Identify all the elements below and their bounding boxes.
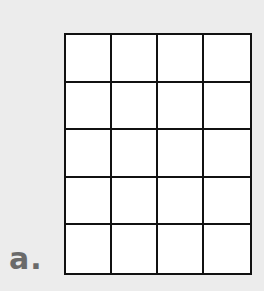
- grid-cell: [112, 83, 158, 131]
- grid-cell: [204, 130, 250, 178]
- grid-cell: [66, 178, 112, 226]
- grid-cell: [158, 130, 204, 178]
- grid-cell: [204, 35, 250, 83]
- grid-cell: [66, 83, 112, 131]
- grid-cell: [204, 83, 250, 131]
- grid-cell: [204, 178, 250, 226]
- grid-cell: [66, 225, 112, 273]
- grid-cell: [158, 178, 204, 226]
- empty-grid-4x5: [64, 33, 252, 275]
- grid-cell: [158, 83, 204, 131]
- grid-cell: [66, 35, 112, 83]
- grid-cell: [204, 225, 250, 273]
- grid-cell: [66, 130, 112, 178]
- grid-cell: [112, 225, 158, 273]
- grid-cell: [158, 225, 204, 273]
- grid-cell: [158, 35, 204, 83]
- figure-label: a.: [9, 244, 43, 274]
- grid-cell: [112, 178, 158, 226]
- grid-cell: [112, 35, 158, 83]
- grid-cell: [112, 130, 158, 178]
